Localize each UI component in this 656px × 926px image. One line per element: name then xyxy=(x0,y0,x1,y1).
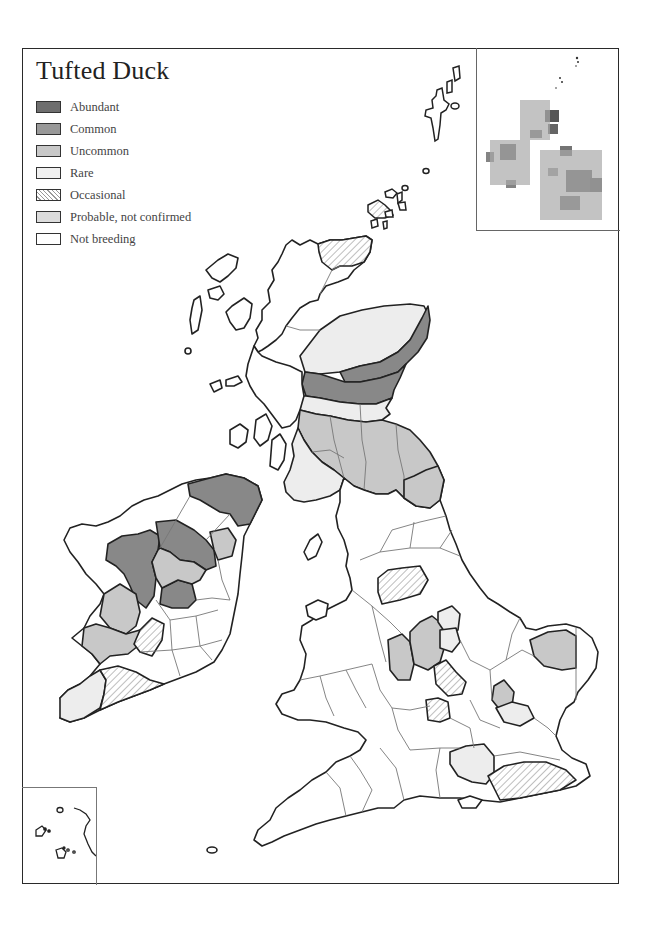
legend-label: Rare xyxy=(70,166,94,181)
inset-distribution-dot-map xyxy=(476,48,620,231)
legend-item-rare: Rare xyxy=(36,162,191,184)
legend: Abundant Common Uncommon Rare Occasional… xyxy=(36,96,191,250)
uncommon-swatch xyxy=(36,145,61,157)
legend-label: Common xyxy=(70,122,117,137)
map-title: Tufted Duck xyxy=(36,56,169,86)
legend-label: Occasional xyxy=(70,188,126,203)
legend-item-common: Common xyxy=(36,118,191,140)
legend-item-abundant: Abundant xyxy=(36,96,191,118)
legend-item-not-breeding: Not breeding xyxy=(36,228,191,250)
legend-label: Uncommon xyxy=(70,144,129,159)
legend-label: Probable, not confirmed xyxy=(70,210,191,225)
probable-swatch xyxy=(36,211,61,223)
inset-scilly-isles xyxy=(22,787,97,885)
legend-item-uncommon: Uncommon xyxy=(36,140,191,162)
occasional-hatched-swatch xyxy=(36,189,61,201)
legend-label: Abundant xyxy=(70,100,119,115)
not-breeding-swatch xyxy=(36,233,61,245)
abundant-swatch xyxy=(36,101,61,113)
rare-swatch xyxy=(36,167,61,179)
common-swatch xyxy=(36,123,61,135)
legend-label: Not breeding xyxy=(70,232,136,247)
legend-item-probable: Probable, not confirmed xyxy=(36,206,191,228)
legend-item-occasional: Occasional xyxy=(36,184,191,206)
